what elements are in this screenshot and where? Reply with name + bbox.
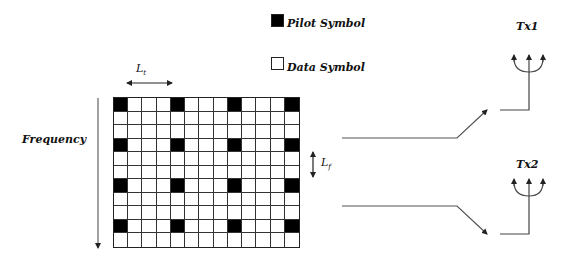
tx2-antenna-icon [500,179,543,234]
tx1-antenna-icon [500,55,543,110]
tx2-signal-path [342,206,487,234]
diagram-lines [0,0,562,258]
tx1-signal-path [342,110,487,138]
